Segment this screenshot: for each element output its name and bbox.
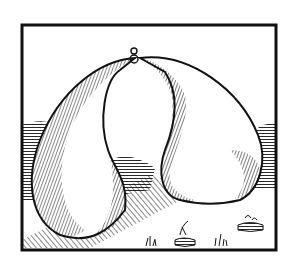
grass-tufts <box>146 216 263 247</box>
ring <box>130 48 138 63</box>
woodcut-illustration <box>0 0 291 271</box>
left-sack <box>32 58 135 238</box>
